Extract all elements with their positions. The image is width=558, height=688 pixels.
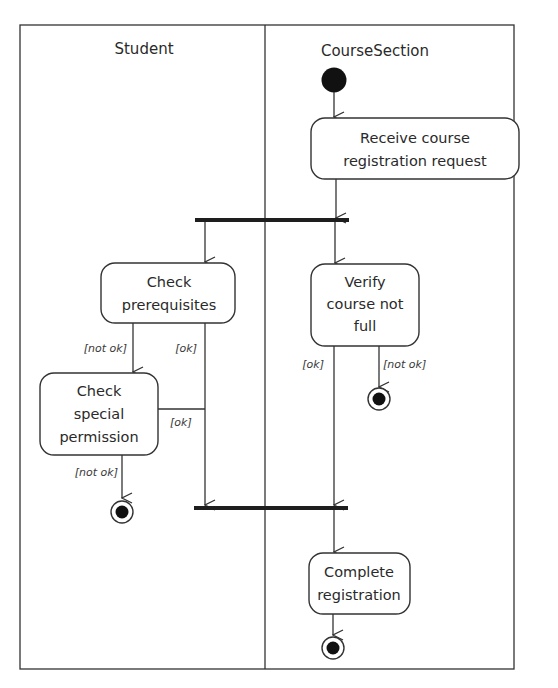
action-text: Verify (344, 274, 386, 290)
action-text: special (74, 406, 125, 422)
action-box (101, 263, 235, 323)
action-text: full (354, 318, 376, 334)
action-text: prerequisites (122, 297, 217, 313)
action-receive-request: Receive course registration request (311, 118, 519, 179)
action-text: Check (77, 383, 122, 399)
guard-special-ok: [ok] (170, 416, 192, 429)
guard-prereq-ok: [ok] (175, 342, 197, 355)
action-box (309, 553, 410, 614)
action-text: registration request (343, 153, 487, 169)
final-node-student (111, 501, 133, 523)
initial-node (322, 68, 347, 93)
action-check-prerequisites: Check prerequisites (101, 263, 235, 323)
action-box (311, 118, 519, 179)
guard-prereq-not-ok: [not ok] (84, 342, 127, 355)
guard-special-not-ok: [not ok] (75, 466, 118, 479)
swimlane-title-student: Student (114, 40, 173, 58)
action-check-special-permission: Check special permission (40, 373, 158, 455)
guard-verify-not-ok: [not ok] (383, 358, 426, 371)
action-text: Receive course (360, 130, 470, 146)
guard-verify-ok: [ok] (302, 358, 324, 371)
action-text: permission (59, 429, 138, 445)
action-text: Complete (324, 564, 394, 580)
action-complete-registration: Complete registration (309, 553, 410, 614)
swimlane-title-coursesection: CourseSection (321, 42, 429, 60)
join-bar (194, 506, 348, 510)
fork-bar (195, 218, 349, 222)
activity-diagram: Student CourseSection Receive course reg… (0, 0, 558, 688)
action-text: Check (147, 274, 192, 290)
action-text: registration (317, 587, 401, 603)
action-verify-course: Verify course not full (311, 264, 419, 346)
action-text: course not (327, 296, 404, 312)
final-node-verify (368, 388, 390, 410)
final-node-main (322, 637, 344, 659)
